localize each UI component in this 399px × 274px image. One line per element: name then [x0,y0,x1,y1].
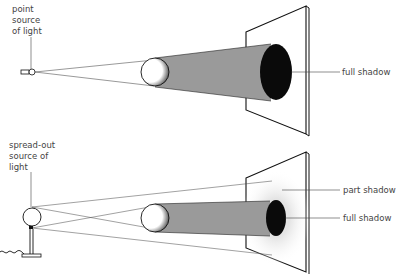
shadow-diagram: point source of light full shadow [0,0,399,274]
lamp-icon [0,208,41,257]
ball-icon [141,58,169,86]
full-shadow-spot [260,44,292,100]
part-shadow-label: part shadow [343,185,396,195]
ball-icon [141,204,169,232]
full-shadow-spot [266,200,286,236]
cable-icon [0,251,24,254]
point-source-diagram: point source of light full shadow [12,4,390,136]
shadow-beam [155,44,271,101]
shadow-beam [155,201,270,236]
point-light-icon [21,69,35,75]
spread-source-diagram: spread-out source of light [0,140,396,274]
full-shadow-label: full shadow [342,67,390,77]
full-shadow-label: full shadow [343,213,391,223]
spread-source-label: spread-out source of light [9,140,58,172]
point-source-label: point source of light [12,4,43,36]
